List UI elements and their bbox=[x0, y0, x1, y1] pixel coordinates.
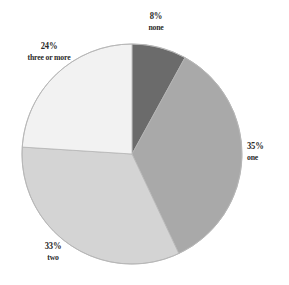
slice-label-three-or-more: 24% three or more bbox=[6, 40, 92, 62]
slice-category-two: two bbox=[32, 252, 75, 263]
pie-slice-group bbox=[22, 44, 242, 264]
slice-label-two: 33% two bbox=[28, 240, 78, 262]
slice-category-one: one bbox=[247, 152, 283, 163]
slice-percent-three-or-more: 24% bbox=[12, 40, 86, 52]
slice-percent-none: 8% bbox=[134, 10, 179, 22]
slice-percent-two: 33% bbox=[32, 240, 75, 252]
slice-category-none: none bbox=[134, 22, 179, 33]
slice-percent-one: 35% bbox=[247, 140, 283, 152]
slice-label-one: 35% one bbox=[244, 140, 286, 162]
slice-category-three-or-more: three or more bbox=[12, 52, 86, 63]
slice-label-none: 8% none bbox=[130, 10, 182, 32]
pie-chart: 8% none 35% one 33% two 24% three or mor… bbox=[0, 0, 289, 285]
